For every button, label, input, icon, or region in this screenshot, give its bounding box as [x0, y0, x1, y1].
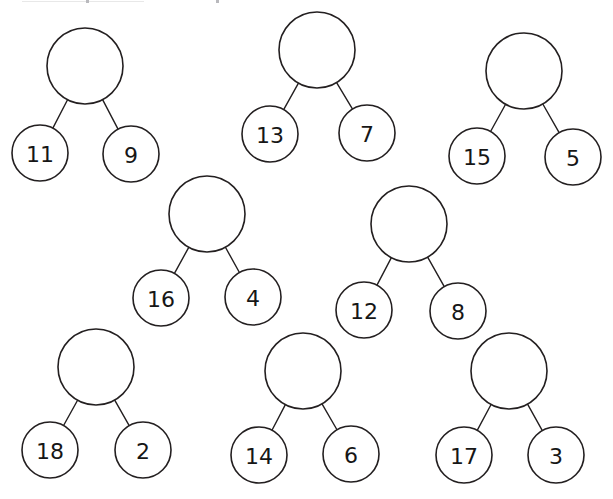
- bond-node-parent-circle[interactable]: [58, 329, 134, 405]
- bond-node-parent[interactable]: [279, 12, 355, 88]
- bond-node-parent[interactable]: [265, 333, 341, 409]
- cropped-toolbar-line: [22, 1, 144, 2]
- bond-edge-right: [225, 247, 239, 272]
- bond-node-left-label: 16: [147, 287, 175, 312]
- bond-node-left: 12: [336, 282, 392, 338]
- cropped-toolbar-tick-left: [86, 0, 89, 3]
- bond-node-right: 6: [323, 426, 379, 482]
- bond-node-left-label: 13: [256, 123, 284, 148]
- bond-edge-right: [103, 100, 118, 130]
- bond-node-right-label: 8: [451, 300, 465, 325]
- bond-edge-right: [115, 400, 129, 426]
- bond-tree: 164: [133, 176, 281, 326]
- bond-node-parent[interactable]: [47, 28, 123, 104]
- bond-node-left-label: 12: [350, 299, 378, 324]
- number-bond-diagram: 119137155164128182146173: [0, 0, 613, 499]
- bond-edge-right: [428, 257, 445, 286]
- bond-tree: 182: [22, 329, 171, 478]
- bond-tree: 155: [449, 33, 601, 185]
- bond-tree-layer: 119137155164128182146173: [12, 12, 601, 483]
- bond-node-left-label: 15: [463, 145, 491, 170]
- cropped-toolbar-tick-right: [216, 0, 219, 3]
- bond-edge-left: [377, 258, 391, 286]
- bond-tree: 119: [12, 28, 159, 182]
- bond-node-parent-circle[interactable]: [279, 12, 355, 88]
- bond-node-right: 5: [545, 129, 601, 185]
- bond-edge-right: [337, 83, 353, 109]
- bond-node-left: 18: [22, 422, 78, 478]
- bond-node-parent[interactable]: [371, 186, 447, 262]
- bond-edge-right: [322, 404, 337, 430]
- bond-edge-left: [53, 100, 68, 128]
- bond-edge-left: [477, 405, 491, 431]
- bond-node-parent-circle[interactable]: [169, 176, 245, 252]
- bond-node-right-label: 7: [360, 122, 374, 147]
- bond-node-parent[interactable]: [58, 329, 134, 405]
- bond-node-right-label: 5: [566, 146, 580, 171]
- bond-node-left-label: 11: [26, 142, 54, 167]
- bond-node-right: 8: [430, 283, 486, 339]
- bond-edge-left: [272, 405, 285, 431]
- worksheet-canvas: 119137155164128182146173: [0, 0, 613, 499]
- bond-node-parent[interactable]: [486, 33, 562, 109]
- bond-node-left-label: 17: [450, 444, 478, 469]
- bond-node-parent-circle[interactable]: [265, 333, 341, 409]
- bond-tree: 128: [336, 186, 486, 339]
- bond-node-parent-circle[interactable]: [47, 28, 123, 104]
- bond-tree: 146: [231, 333, 379, 483]
- bond-node-parent-circle[interactable]: [371, 186, 447, 262]
- bond-edge-left: [491, 104, 506, 131]
- bond-node-parent-circle[interactable]: [471, 333, 547, 409]
- bond-node-left-label: 14: [245, 444, 273, 469]
- bond-node-right: 9: [103, 126, 159, 182]
- bond-tree: 137: [242, 12, 395, 162]
- bond-node-left: 13: [242, 106, 298, 162]
- bond-node-right-label: 2: [136, 439, 150, 464]
- bond-node-left-label: 18: [36, 439, 64, 464]
- bond-node-right: 3: [528, 427, 584, 483]
- bond-node-right: 7: [339, 105, 395, 161]
- bond-node-right: 2: [115, 422, 171, 478]
- bond-node-parent[interactable]: [169, 176, 245, 252]
- bond-edge-left: [174, 247, 188, 273]
- bond-edge-right: [543, 104, 559, 133]
- bond-node-left: 17: [436, 427, 492, 483]
- bond-node-left: 16: [133, 270, 189, 326]
- bond-edge-left: [284, 83, 299, 109]
- bond-node-parent-circle[interactable]: [486, 33, 562, 109]
- bond-node-right-label: 9: [124, 143, 138, 168]
- bond-node-right: 4: [225, 269, 281, 325]
- bond-edge-right: [528, 404, 543, 430]
- bond-node-left: 11: [12, 125, 68, 181]
- bond-node-right-label: 6: [344, 443, 358, 468]
- bond-node-left: 15: [449, 128, 505, 184]
- bond-node-right-label: 3: [549, 444, 563, 469]
- bond-edge-left: [64, 400, 78, 425]
- bond-node-right-label: 4: [246, 286, 260, 311]
- bond-node-left: 14: [231, 427, 287, 483]
- bond-node-parent[interactable]: [471, 333, 547, 409]
- bond-tree: 173: [436, 333, 584, 483]
